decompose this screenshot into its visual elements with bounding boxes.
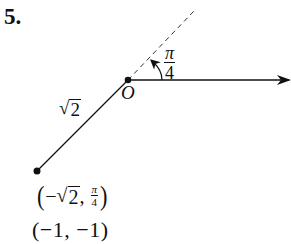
angle-numerator: π (164, 44, 175, 63)
angle-arc-icon (153, 62, 162, 80)
theta-fraction: π 4 (91, 184, 99, 208)
radius-segment (37, 80, 128, 171)
open-paren: ( (37, 180, 44, 212)
rectangular-coordinate-label: (−1, −1) (32, 217, 108, 243)
angle-denominator: 4 (165, 63, 174, 82)
plotted-point (34, 168, 41, 175)
comma: , (80, 185, 85, 208)
origin-label: O (121, 82, 135, 104)
minus-sign: − (45, 185, 56, 208)
angle-label: π 4 (164, 44, 175, 82)
polar-coordinate-label: ( − √2 , π 4 ) (36, 180, 108, 212)
sqrt-expression: √2 (57, 184, 80, 208)
sqrt-expression: √2 (59, 97, 81, 120)
radical-sign: √ (59, 97, 69, 119)
segment-length-label: √2 (59, 97, 81, 120)
angle-fraction: π 4 (164, 44, 175, 82)
radicand: 2 (68, 186, 80, 208)
theta-numerator: π (91, 184, 99, 196)
close-paren: ) (100, 180, 107, 212)
dashed-terminal-ray (128, 11, 194, 80)
radical-sign: √ (57, 184, 68, 207)
theta-denominator: 4 (92, 196, 98, 208)
radicand: 2 (69, 99, 81, 120)
